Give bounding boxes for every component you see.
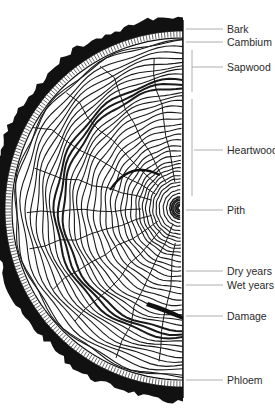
phloem-tick [6,224,12,225]
label-pith: Pith [227,204,245,216]
label-damage: Damage [227,310,267,322]
label-cambium: Cambium [227,36,272,48]
phloem-tick [168,32,169,38]
phloem-tick [168,380,169,386]
phloem-tick [6,194,12,195]
label-dry-years: Dry years [227,265,272,277]
label-heartwood: Heartwood [227,144,275,156]
label-phloem: Phloem [227,374,263,386]
label-sapwood: Sapwood [227,61,271,73]
leader-lines [186,29,223,380]
label-bark: Bark [227,23,249,35]
label-wet-years: Wet years [227,279,274,291]
